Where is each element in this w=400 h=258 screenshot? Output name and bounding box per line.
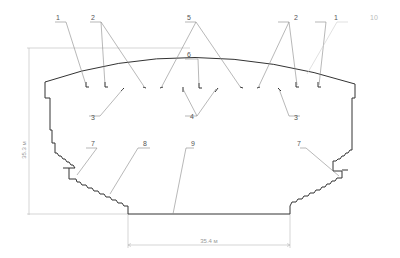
callout-7-right: 7 xyxy=(297,140,301,147)
dimension-lines xyxy=(27,48,290,248)
cross-section-diagram: 1 2 5 2 1 10 6 3 4 3 7 8 9 7 35.3 м 35.4… xyxy=(0,0,400,258)
callout-1-left: 1 xyxy=(56,14,60,21)
callout-6: 6 xyxy=(187,51,191,58)
callout-3-left: 3 xyxy=(91,114,95,121)
callout-9: 9 xyxy=(191,140,195,147)
leader-line-10 xyxy=(307,22,348,74)
callout-1-right: 1 xyxy=(334,14,338,21)
callout-5: 5 xyxy=(187,14,191,21)
callout-7-left: 7 xyxy=(91,140,95,147)
callout-3-right: 3 xyxy=(294,114,298,121)
callout-8: 8 xyxy=(143,140,147,147)
callout-2-left: 2 xyxy=(91,14,95,21)
callout-2-right: 2 xyxy=(294,14,298,21)
section-outline xyxy=(45,57,355,214)
bolt-markers xyxy=(63,82,348,170)
width-dimension-label: 35.4 м xyxy=(200,238,217,244)
callout-4: 4 xyxy=(190,113,194,120)
callout-10: 10 xyxy=(370,14,378,21)
height-dimension-label: 35.3 м xyxy=(21,141,27,158)
